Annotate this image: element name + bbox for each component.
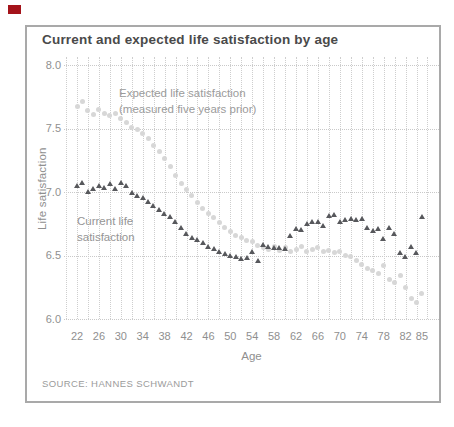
vertical-gridline bbox=[318, 57, 319, 319]
x-tick-label: 54 bbox=[241, 330, 263, 342]
expected-data-point bbox=[135, 127, 140, 132]
expected-data-point bbox=[376, 271, 381, 276]
expected-data-point bbox=[250, 239, 255, 244]
red-accent-tab bbox=[8, 5, 21, 14]
expected-data-point bbox=[211, 215, 216, 220]
current-data-point bbox=[255, 258, 261, 263]
x-tick-label: 38 bbox=[154, 330, 176, 342]
x-tick-label: 22 bbox=[66, 330, 88, 342]
expected-data-point bbox=[398, 273, 403, 278]
expected-data-point bbox=[359, 262, 364, 267]
expected-data-point bbox=[419, 291, 424, 296]
y-tick-label: 7.0 bbox=[35, 186, 61, 198]
expected-data-point bbox=[151, 143, 156, 148]
expected-data-point bbox=[206, 211, 211, 216]
x-tick-label: 46 bbox=[197, 330, 219, 342]
expected-data-point bbox=[184, 187, 189, 192]
current-data-point bbox=[287, 233, 293, 238]
expected-data-point bbox=[244, 238, 249, 243]
expected-data-point bbox=[310, 247, 315, 252]
x-tick-label: 58 bbox=[263, 330, 285, 342]
expected-data-point bbox=[102, 111, 107, 116]
vertical-gridline bbox=[427, 57, 428, 319]
vertical-gridline bbox=[110, 57, 111, 319]
expected-data-point bbox=[179, 181, 184, 186]
expected-data-point bbox=[140, 131, 145, 136]
expected-data-point bbox=[414, 300, 419, 305]
horizontal-gridline bbox=[64, 319, 439, 320]
expected-data-point bbox=[354, 258, 359, 263]
vertical-gridline bbox=[77, 57, 78, 319]
x-tick-label: 70 bbox=[329, 330, 351, 342]
expected-data-point bbox=[304, 249, 309, 254]
expected-data-point bbox=[233, 233, 238, 238]
vertical-gridline bbox=[274, 57, 275, 319]
x-tick-label: 78 bbox=[373, 330, 395, 342]
y-tick-label: 6.0 bbox=[35, 313, 61, 325]
vertical-gridline bbox=[285, 57, 286, 319]
x-tick-label: 30 bbox=[110, 330, 132, 342]
vertical-gridline bbox=[99, 57, 100, 319]
vertical-gridline bbox=[362, 57, 363, 319]
vertical-gridline bbox=[263, 57, 264, 319]
expected-data-point bbox=[113, 111, 118, 116]
expected-data-point bbox=[343, 253, 348, 258]
expected-data-point bbox=[80, 99, 85, 104]
expected-data-point bbox=[129, 125, 134, 130]
expected-data-point bbox=[387, 277, 392, 282]
expected-data-point bbox=[96, 107, 101, 112]
page: { "chart": { "title": "Current and expec… bbox=[0, 0, 454, 427]
expected-data-point bbox=[403, 285, 408, 290]
expected-data-point bbox=[195, 200, 200, 205]
current-data-point bbox=[282, 246, 288, 251]
vertical-gridline bbox=[351, 57, 352, 319]
plot-area: Expected life satisfaction (measured fiv… bbox=[64, 57, 439, 320]
expected-data-point bbox=[173, 173, 178, 178]
current-data-point bbox=[402, 254, 408, 259]
current-data-point bbox=[391, 231, 397, 236]
vertical-gridline bbox=[329, 57, 330, 319]
current-data-point bbox=[419, 214, 425, 219]
expected-data-point bbox=[124, 120, 129, 125]
vertical-gridline bbox=[406, 57, 407, 319]
current-annotation-line1: Current life bbox=[77, 215, 133, 227]
expected-data-point bbox=[228, 229, 233, 234]
expected-series-annotation: Expected life satisfaction (measured fiv… bbox=[119, 85, 256, 117]
current-data-point bbox=[359, 216, 365, 221]
expected-data-point bbox=[157, 149, 162, 154]
x-tick-label: 62 bbox=[285, 330, 307, 342]
current-data-point bbox=[249, 249, 255, 254]
expected-data-point bbox=[315, 245, 320, 250]
chart-card: Current and expected life satisfaction b… bbox=[25, 25, 441, 403]
expected-annotation-line2: (measured five years prior) bbox=[119, 103, 256, 115]
vertical-gridline bbox=[373, 57, 374, 319]
x-tick-label: 50 bbox=[219, 330, 241, 342]
current-data-point bbox=[408, 244, 414, 249]
expected-data-point bbox=[91, 112, 96, 117]
current-data-point bbox=[244, 255, 250, 260]
y-tick-label: 8.0 bbox=[35, 59, 61, 71]
vertical-gridline bbox=[417, 57, 418, 319]
current-data-point bbox=[413, 250, 419, 255]
current-data-point bbox=[331, 212, 337, 217]
expected-data-point bbox=[381, 263, 386, 268]
vertical-gridline bbox=[307, 57, 308, 319]
x-tick-label: 42 bbox=[176, 330, 198, 342]
expected-data-point bbox=[348, 254, 353, 259]
expected-data-point bbox=[222, 225, 227, 230]
expected-data-point bbox=[365, 266, 370, 271]
expected-data-point bbox=[75, 104, 80, 109]
expected-data-point bbox=[239, 235, 244, 240]
expected-data-point bbox=[299, 244, 304, 249]
expected-data-point bbox=[200, 206, 205, 211]
vertical-gridline bbox=[88, 57, 89, 319]
x-tick-label: 26 bbox=[88, 330, 110, 342]
current-data-point bbox=[386, 225, 392, 230]
expected-data-point bbox=[107, 113, 112, 118]
expected-data-point bbox=[288, 249, 293, 254]
x-tick-label: 66 bbox=[307, 330, 329, 342]
expected-data-point bbox=[370, 268, 375, 273]
current-data-point bbox=[178, 225, 184, 230]
expected-data-point bbox=[85, 108, 90, 113]
expected-data-point bbox=[409, 296, 414, 301]
